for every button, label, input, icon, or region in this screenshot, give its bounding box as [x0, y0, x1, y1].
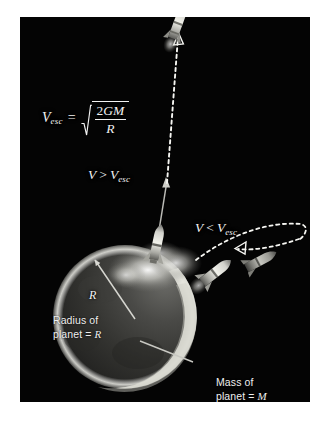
rocket-suborbital-descending-body [244, 248, 278, 272]
escape-trajectory-group [156, 33, 183, 249]
suborbital-trajectory-return-dashed [238, 239, 299, 249]
photo-plate: Vesc = 2GM R V>Vesc V<Vesc R [20, 17, 310, 402]
planet-surface-mottle-2 [112, 337, 164, 369]
escape-velocity-figure: Vesc = 2GM R V>Vesc V<Vesc R [0, 0, 329, 421]
scene-illustration [20, 17, 310, 402]
rocket-suborbital-descending [240, 244, 281, 278]
suborbital-trajectory-arrowhead [235, 242, 246, 254]
suborbital-trajectory-group [196, 224, 306, 260]
escape-trajectory-dashed [167, 37, 178, 183]
rocket-suborbital-ascending-body [199, 256, 234, 286]
planet-surface-mottle-3 [64, 327, 100, 351]
